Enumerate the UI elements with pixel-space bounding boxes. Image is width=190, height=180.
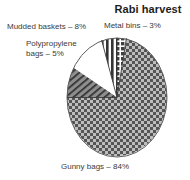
slice-label-polypropylene-line2: bags – 5%: [26, 49, 64, 58]
slice-label-metal-bins: Metal bins – 3%: [104, 21, 161, 31]
slice-label-mudded-baskets: Mudded baskets – 8%: [7, 22, 86, 32]
pie-slice-mudded-baskets: [67, 68, 117, 98]
pie-chart-figure: Rabi harvest Mudded baskets – 8% Polypro…: [0, 0, 190, 180]
page-title: Rabi harvest: [108, 3, 188, 15]
slice-label-gunny-bags: Gunny bags – 84%: [0, 162, 190, 172]
pie-chart: [66, 37, 168, 158]
pie-chart-svg: [66, 37, 168, 158]
